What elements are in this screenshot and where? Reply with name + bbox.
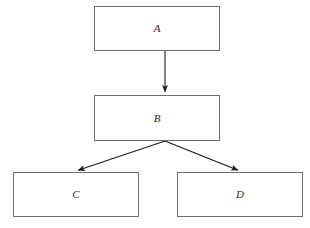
node-box-d[interactable]: D: [177, 172, 303, 217]
edge-b-to-d: [165, 141, 238, 170]
node-label-a: A: [154, 23, 161, 34]
diagram-canvas: A B C D: [0, 0, 310, 228]
edge-b-to-c: [78, 141, 165, 170]
node-box-b[interactable]: B: [94, 95, 220, 141]
node-label-c: C: [72, 189, 79, 200]
node-label-b: B: [154, 113, 161, 124]
node-box-c[interactable]: C: [13, 172, 139, 217]
node-label-d: D: [236, 189, 244, 200]
node-box-a[interactable]: A: [94, 6, 220, 51]
